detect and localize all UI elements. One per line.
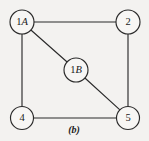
node-1a-label-suffix: A (20, 16, 28, 27)
node-5-label-prefix: 5 (125, 112, 130, 123)
edge-1b-5 (85, 78, 120, 110)
graph-figure: 1A 2 1B 4 (0, 0, 149, 141)
node-4: 4 (11, 107, 34, 130)
graph-diagram: 1A 2 1B 4 (0, 0, 149, 141)
node-4-label-prefix: 4 (19, 112, 25, 123)
node-4-label: 4 (19, 112, 25, 123)
node-1a: 1A (10, 10, 34, 34)
node-1b-label-suffix: B (75, 64, 82, 75)
node-2-label-prefix: 2 (125, 16, 130, 27)
node-1a-label: 1A (16, 16, 28, 27)
node-1b: 1B (64, 58, 88, 82)
node-1b-label: 1B (70, 64, 82, 75)
node-group: 1A 2 1B 4 (10, 10, 140, 130)
node-5-label: 5 (125, 112, 130, 123)
node-2: 2 (116, 10, 140, 34)
figure-caption: (b) (68, 124, 80, 136)
node-5: 5 (117, 107, 140, 130)
edge-1a-1b (31, 30, 67, 62)
node-2-label: 2 (125, 16, 130, 27)
